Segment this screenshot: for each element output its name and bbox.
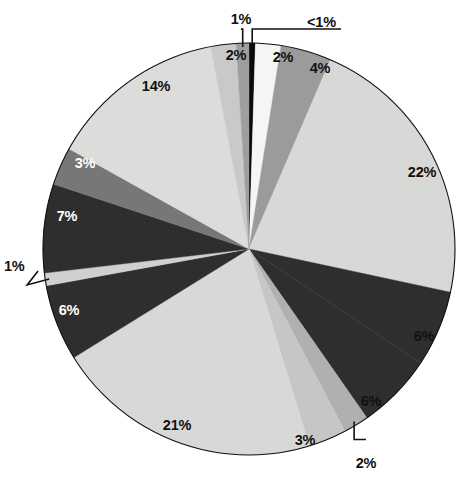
slice-percentage-label: 2% [273, 49, 294, 65]
slice-percentage-label: 4% [310, 60, 331, 76]
pie-chart-figure: <1%2%4%22%6%6%2%3%21%6%1%7%3%14%2%1% [0, 0, 460, 481]
slice-percentage-label: 2% [356, 455, 377, 471]
pie-chart-svg: <1%2%4%22%6%6%2%3%21%6%1%7%3%14%2%1% [0, 0, 460, 481]
pie-slices-group [43, 43, 455, 455]
slice-percentage-label: 6% [59, 302, 80, 318]
slice-percentage-label: 2% [226, 47, 247, 63]
slice-percentage-label: 6% [414, 328, 435, 344]
slice-percentage-label: 7% [57, 208, 78, 224]
slice-percentage-label: 14% [142, 78, 171, 94]
slice-percentage-label: 6% [361, 393, 382, 409]
slice-percentage-label: 21% [163, 417, 192, 433]
slice-percentage-label: 22% [408, 164, 437, 180]
slice-percentage-label: <1% [307, 14, 336, 30]
slice-percentage-label: 3% [75, 155, 96, 171]
slice-percentage-label: 1% [4, 258, 25, 274]
slice-percentage-label: 1% [231, 11, 252, 27]
slice-percentage-label: 3% [295, 432, 316, 448]
